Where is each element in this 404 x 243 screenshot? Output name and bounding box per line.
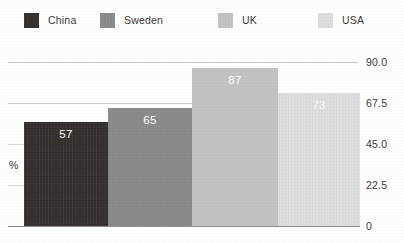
chart-legend: China Sweden UK USA: [0, 0, 404, 44]
legend-item-sweden[interactable]: Sweden: [100, 13, 163, 28]
legend-label-usa: USA: [342, 13, 364, 28]
legend-swatch-china: [24, 13, 39, 28]
legend-label-sweden: Sweden: [124, 13, 163, 28]
bar-value-uk: 87: [192, 74, 278, 86]
legend-item-china[interactable]: China: [24, 13, 76, 28]
bar-value-usa: 73: [278, 99, 360, 111]
bar-usa[interactable]: 73: [278, 93, 360, 226]
bar-value-sweden: 65: [108, 114, 192, 126]
legend-swatch-uk: [218, 13, 233, 28]
legend-label-china: China: [48, 13, 76, 28]
legend-label-uk: UK: [242, 13, 257, 28]
legend-item-uk[interactable]: UK: [218, 13, 257, 28]
legend-swatch-usa: [318, 13, 333, 28]
legend-item-usa[interactable]: USA: [318, 13, 364, 28]
bar-uk[interactable]: 87: [192, 68, 278, 226]
bar-sweden[interactable]: 65: [108, 108, 192, 226]
bar-china[interactable]: 57: [24, 122, 108, 226]
bar-value-china: 57: [24, 128, 108, 140]
plot-area: 90.0 67.5 45.0 22.5 0 % 57 65 87 73: [0, 44, 404, 243]
legend-swatch-sweden: [100, 13, 115, 28]
bar-chart: China Sweden UK USA 90.0 67.5 45.0 22.5 …: [0, 0, 404, 243]
bar-series: 57 65 87 73: [0, 44, 404, 243]
